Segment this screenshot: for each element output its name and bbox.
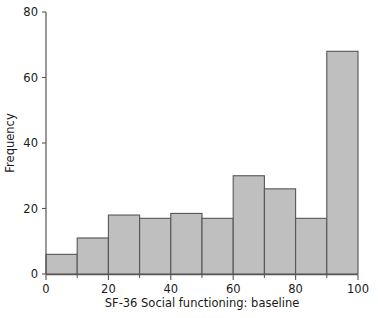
y-axis-tick-label: 20 <box>23 202 38 216</box>
histogram-bar <box>264 189 295 274</box>
y-axis-tick-label: 0 <box>31 267 38 281</box>
x-axis-title: SF-36 Social functioning: baseline <box>105 296 300 310</box>
y-axis-tick-label: 80 <box>23 5 38 19</box>
chart-canvas: 020406080 020406080100 Frequency SF-36 S… <box>0 0 378 318</box>
x-axis-tick-label: 20 <box>101 282 116 296</box>
histogram-bar <box>233 176 264 274</box>
y-axis-tick-label: 40 <box>23 136 38 150</box>
x-axis-tick-label: 80 <box>288 282 303 296</box>
histogram-bar <box>327 51 358 274</box>
x-axis-tick-label: 0 <box>42 282 49 296</box>
x-axis-tick-label: 100 <box>347 282 369 296</box>
y-axis-tick-label: 60 <box>23 71 38 85</box>
histogram-figure: 020406080 020406080100 Frequency SF-36 S… <box>0 0 378 318</box>
histogram-bar <box>296 218 327 274</box>
histogram-bar <box>77 238 108 274</box>
histogram-bar <box>108 215 139 274</box>
x-axis-tick-label: 60 <box>226 282 241 296</box>
y-axis-title: Frequency <box>3 113 17 173</box>
histogram-bar <box>46 254 77 274</box>
histogram-bar <box>202 218 233 274</box>
histogram-bar <box>140 218 171 274</box>
histogram-bar <box>171 213 202 274</box>
x-axis-tick-label: 40 <box>163 282 178 296</box>
